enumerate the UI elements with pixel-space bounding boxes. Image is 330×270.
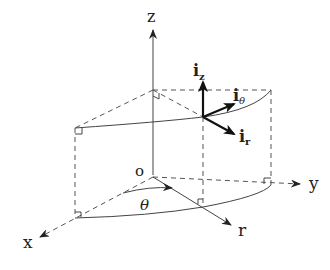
right-angle-top	[153, 93, 159, 99]
right-angle-right-bottom	[264, 178, 271, 184]
itheta-label: iθ	[233, 86, 245, 106]
ir-label-sub: r	[245, 136, 251, 147]
right-angle-point-bottom	[198, 199, 203, 204]
top-dash-left	[75, 90, 153, 128]
x-axis	[40, 177, 153, 237]
x-axis-label: x	[23, 232, 33, 252]
bottom-arc	[75, 185, 271, 218]
ir-vector	[203, 117, 234, 134]
iz-label: iz	[193, 61, 205, 82]
iz-label-sub: z	[199, 71, 205, 82]
r-axis-label: r	[238, 220, 247, 240]
r-axis	[153, 177, 231, 225]
theta-label: θ	[140, 196, 149, 214]
z-axis-label: z	[147, 7, 155, 26]
itheta-label-sub: θ	[239, 95, 245, 106]
origin-label: o	[135, 162, 144, 180]
right-angle-left-top	[75, 128, 82, 134]
y-axis	[153, 177, 300, 184]
cylindrical-coordinates-diagram: z y x r o θ iz iθ ir	[0, 0, 330, 270]
itheta-vector	[203, 104, 234, 117]
y-axis-label: y	[308, 173, 319, 193]
ir-label: ir	[239, 127, 251, 147]
theta-arc	[123, 188, 172, 193]
top-dash-radial	[153, 90, 203, 117]
